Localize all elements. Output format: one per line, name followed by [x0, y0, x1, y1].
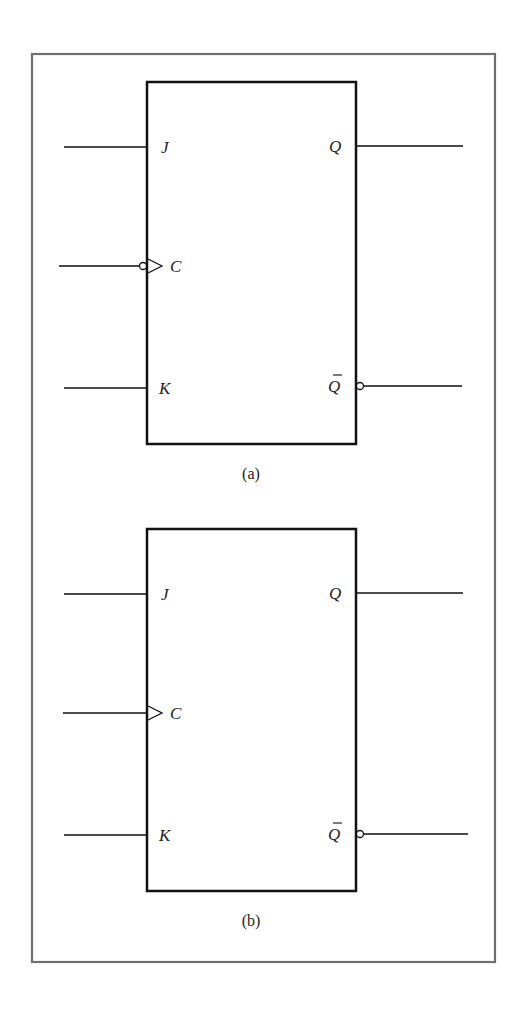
jk-flipflop-figure: J C K Q Q (a) J C K Q Q: [0, 0, 521, 1012]
flipflop-a: J C K Q Q (a): [59, 82, 463, 483]
flipflop-b: J C K Q Q (b): [63, 529, 468, 930]
figure-frame: [32, 54, 495, 962]
q-label: Q: [329, 137, 341, 156]
qbar-inversion-bubble: [357, 831, 364, 838]
qbar-label: Q: [328, 825, 340, 844]
c-label: C: [170, 257, 182, 276]
clock-triangle-icon: [148, 259, 162, 273]
clock-triangle-icon: [148, 706, 162, 720]
k-label: K: [158, 826, 172, 845]
caption-b: (b): [242, 912, 261, 930]
j-label: J: [161, 138, 170, 157]
k-label: K: [158, 379, 172, 398]
c-label: C: [170, 704, 182, 723]
j-label: J: [161, 585, 170, 604]
qbar-label: Q: [328, 377, 340, 396]
caption-a: (a): [242, 465, 260, 483]
q-label: Q: [329, 584, 341, 603]
qbar-inversion-bubble: [357, 383, 364, 390]
clock-inversion-bubble: [140, 263, 147, 270]
